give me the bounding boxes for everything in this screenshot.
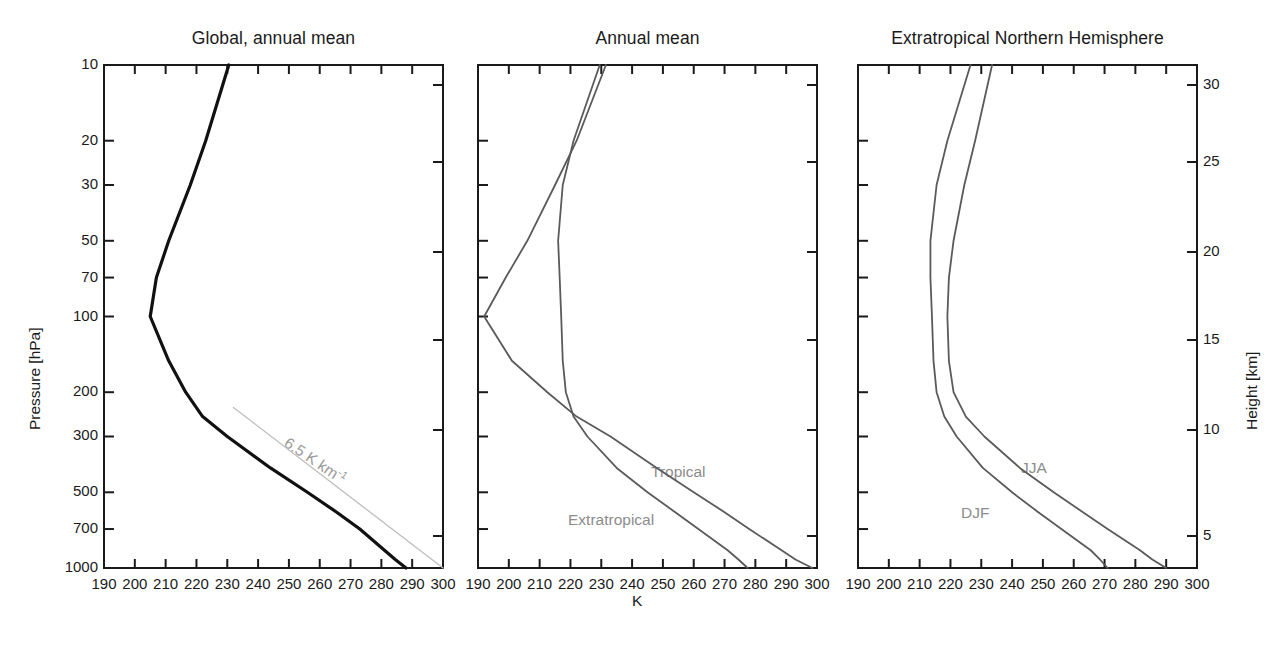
y-tick-height-25: 25 <box>1203 152 1233 169</box>
plot-canvas <box>0 0 1266 646</box>
y-tick-pressure-70: 70 <box>44 268 98 285</box>
curve-djf <box>930 65 1107 568</box>
axis-frame-0 <box>104 65 443 568</box>
curve-jja <box>947 65 1166 568</box>
y-tick-pressure-300: 300 <box>44 426 98 443</box>
y-tick-height-30: 30 <box>1203 75 1233 92</box>
x-tick-0-300: 300 <box>425 575 461 592</box>
y-tick-pressure-500: 500 <box>44 482 98 499</box>
temperature-profile-figure: Global, annual mean Pressure [hPa] 6.5 K… <box>0 0 1266 646</box>
y-tick-pressure-100: 100 <box>44 307 98 324</box>
y-tick-pressure-200: 200 <box>44 382 98 399</box>
y-tick-pressure-30: 30 <box>44 175 98 192</box>
curve-global-annual-mean-temperature <box>150 65 406 568</box>
y-tick-pressure-1000: 1000 <box>44 558 98 575</box>
x-tick-2-300: 300 <box>1179 575 1215 592</box>
y-tick-pressure-700: 700 <box>44 519 98 536</box>
y-tick-height-10: 10 <box>1203 420 1233 437</box>
axis-frame-2 <box>858 65 1197 568</box>
x-tick-1-300: 300 <box>799 575 835 592</box>
y-tick-pressure-10: 10 <box>44 55 98 72</box>
y-tick-height-20: 20 <box>1203 242 1233 259</box>
y-tick-height-15: 15 <box>1203 330 1233 347</box>
clipped-caption-text <box>0 636 1266 646</box>
y-tick-height-5: 5 <box>1203 526 1233 543</box>
y-tick-pressure-50: 50 <box>44 231 98 248</box>
y-tick-pressure-20: 20 <box>44 131 98 148</box>
curve-extratropical <box>558 65 748 568</box>
curve-6-5-k-km-1-reference-lapse-rate <box>233 407 443 568</box>
